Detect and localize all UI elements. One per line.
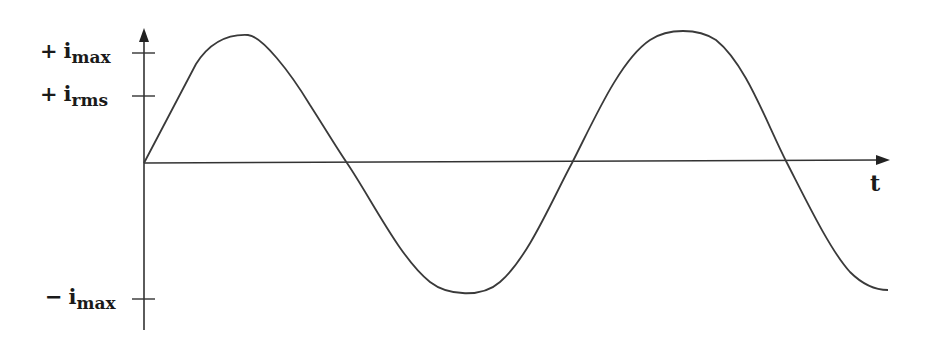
label-neg-imax: −imax [45,286,116,307]
sign: − [45,284,63,309]
x-axis-label: t [870,172,880,194]
subscript: rms [72,90,109,110]
y-axis-arrow-icon [139,28,149,42]
sine-wave-diagram [0,0,932,343]
label-pos-imax: +imax [40,40,111,61]
symbol: i [64,38,72,63]
sign: + [40,81,58,106]
subscript: max [72,47,111,67]
symbol: i [64,81,72,106]
subscript: max [77,293,116,313]
sign: + [40,38,58,63]
label-pos-irms: +irms [40,83,108,104]
x-axis-arrow-icon [876,155,890,165]
x-axis [144,160,880,163]
symbol: i [69,284,77,309]
